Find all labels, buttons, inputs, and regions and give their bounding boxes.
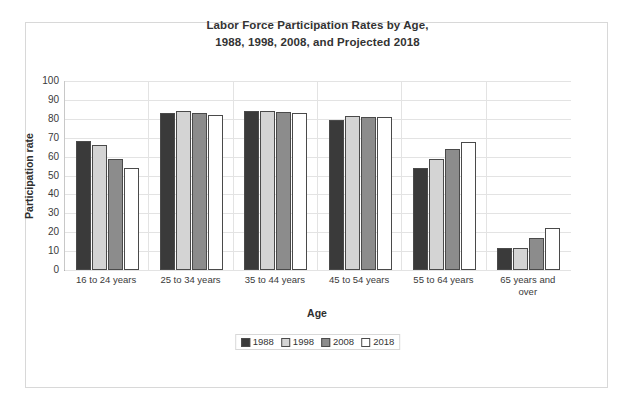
y-tick-label-40: 40 <box>48 189 59 199</box>
y-tick-label-50: 50 <box>48 171 59 181</box>
legend-swatch-2018 <box>361 338 370 347</box>
x-tick-label-3: 45 to 54 years <box>317 274 401 298</box>
plot-area: 1009080706050403020100 <box>64 81 571 271</box>
bar-2018-65-years-and-over[interactable] <box>545 228 560 270</box>
legend-swatch-1988 <box>241 338 250 347</box>
bar-group-bars <box>329 81 392 270</box>
x-tick-label-line: 45 to 54 years <box>317 274 401 286</box>
y-tick-label-20: 20 <box>48 227 59 237</box>
x-tick-label-1: 25 to 34 years <box>148 274 232 298</box>
x-tick-label-line: 35 to 44 years <box>233 274 317 286</box>
legend-item-2008[interactable]: 2008 <box>321 337 354 347</box>
x-axis-title-label: Age <box>307 307 327 319</box>
bar-group-bars <box>244 81 307 270</box>
y-tick-label-70: 70 <box>48 133 59 143</box>
y-axis-title-label: Participation rate <box>23 133 35 219</box>
bar-2018-35-to-44-years[interactable] <box>292 113 307 270</box>
bar-2008-65-years-and-over[interactable] <box>529 238 544 270</box>
bar-groups <box>65 81 571 270</box>
chart-title-line-1: Labor Force Participation Rates by Age, <box>0 17 635 34</box>
bar-1988-35-to-44-years[interactable] <box>244 111 259 270</box>
bar-1998-16-to-24-years[interactable] <box>92 145 107 270</box>
bar-group <box>402 81 486 270</box>
x-tick-label-line: 65 years and <box>486 274 570 286</box>
x-tick-label-line: 25 to 34 years <box>148 274 232 286</box>
y-tick-label-30: 30 <box>48 208 59 218</box>
y-tick-label-90: 90 <box>48 95 59 105</box>
x-tick-label-0: 16 to 24 years <box>64 274 148 298</box>
bar-group <box>318 81 402 270</box>
legend-item-2018[interactable]: 2018 <box>361 337 394 347</box>
bar-group-bars <box>497 81 560 270</box>
bar-1998-65-years-and-over[interactable] <box>513 248 528 270</box>
bar-1988-16-to-24-years[interactable] <box>76 141 91 270</box>
y-tick-label-10: 10 <box>48 246 59 256</box>
bar-1988-55-to-64-years[interactable] <box>413 168 428 270</box>
bar-2018-16-to-24-years[interactable] <box>124 168 139 270</box>
chart-title: Labor Force Participation Rates by Age, … <box>0 17 635 51</box>
y-tick-label-0: 0 <box>53 265 59 275</box>
bar-2018-25-to-34-years[interactable] <box>208 115 223 270</box>
bar-group <box>487 81 571 270</box>
bar-1988-65-years-and-over[interactable] <box>497 248 512 270</box>
y-tick-label-80: 80 <box>48 114 59 124</box>
bar-group <box>234 81 318 270</box>
bar-2008-45-to-54-years[interactable] <box>361 117 376 270</box>
bar-group-bars <box>160 81 223 270</box>
legend-label-1998: 1998 <box>293 337 314 347</box>
bar-1998-35-to-44-years[interactable] <box>260 111 275 270</box>
x-axis-title: Age <box>64 307 570 319</box>
bar-2018-45-to-54-years[interactable] <box>377 117 392 270</box>
y-tick-label-100: 100 <box>42 76 59 86</box>
legend-label-2008: 2008 <box>333 337 354 347</box>
bar-1998-25-to-34-years[interactable] <box>176 111 191 270</box>
legend-item-1998[interactable]: 1998 <box>281 337 314 347</box>
bar-group-bars <box>413 81 476 270</box>
bar-1998-55-to-64-years[interactable] <box>429 159 444 270</box>
bar-group-bars <box>76 81 139 270</box>
bar-2008-16-to-24-years[interactable] <box>108 159 123 270</box>
legend-label-2018: 2018 <box>373 337 394 347</box>
x-axis-tick-labels: 16 to 24 years25 to 34 years35 to 44 yea… <box>64 274 570 298</box>
x-tick-label-5: 65 years andover <box>486 274 570 298</box>
bar-1998-45-to-54-years[interactable] <box>345 116 360 270</box>
x-tick-label-line: over <box>486 286 570 298</box>
legend-swatch-2008 <box>321 338 330 347</box>
x-tick-label-2: 35 to 44 years <box>233 274 317 298</box>
bar-2008-55-to-64-years[interactable] <box>445 149 460 270</box>
legend-label-1988: 1988 <box>253 337 274 347</box>
bar-2008-25-to-34-years[interactable] <box>192 113 207 270</box>
chart-legend: 1988199820082018 <box>235 334 401 350</box>
legend-swatch-1998 <box>281 338 290 347</box>
x-tick-label-4: 55 to 64 years <box>401 274 485 298</box>
legend-item-1988[interactable]: 1988 <box>241 337 274 347</box>
bar-1988-45-to-54-years[interactable] <box>329 120 344 270</box>
chart-title-line-2: 1988, 1998, 2008, and Projected 2018 <box>0 34 635 51</box>
bar-group <box>65 81 149 270</box>
bar-2008-35-to-44-years[interactable] <box>276 112 291 270</box>
bar-2018-55-to-64-years[interactable] <box>461 142 476 270</box>
bar-group <box>149 81 233 270</box>
gridline-0 <box>65 270 571 271</box>
bar-1988-25-to-34-years[interactable] <box>160 113 175 270</box>
x-tick-label-line: 55 to 64 years <box>401 274 485 286</box>
x-tick-label-line: 16 to 24 years <box>64 274 148 286</box>
y-tick-label-60: 60 <box>48 152 59 162</box>
y-axis-title: Participation rate <box>22 81 36 270</box>
